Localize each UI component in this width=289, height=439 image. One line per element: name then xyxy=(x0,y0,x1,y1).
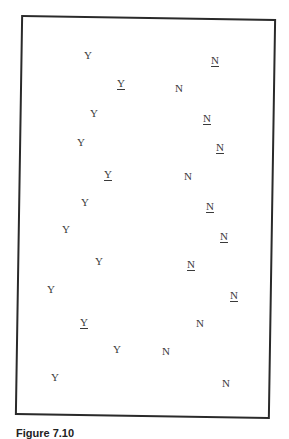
n-marker-underlined: N xyxy=(216,141,224,153)
y-marker-underlined: Y xyxy=(80,316,88,328)
y-marker: Y xyxy=(62,223,70,235)
figure-frame xyxy=(15,15,276,419)
y-marker-underlined: Y xyxy=(117,77,125,89)
figure-caption: Figure 7.10 xyxy=(16,427,74,439)
y-marker: Y xyxy=(51,371,59,383)
y-marker: Y xyxy=(113,343,121,355)
y-marker-underlined: Y xyxy=(104,168,112,180)
n-marker-underlined: N xyxy=(187,258,195,270)
n-marker-underlined: N xyxy=(203,112,211,124)
n-marker-underlined: N xyxy=(206,200,214,212)
y-marker: Y xyxy=(81,196,89,208)
n-marker-underlined: N xyxy=(220,230,228,242)
y-marker: Y xyxy=(77,136,85,148)
n-marker: N xyxy=(222,377,230,389)
n-marker: N xyxy=(175,82,183,94)
y-marker: Y xyxy=(47,283,55,295)
n-marker: N xyxy=(184,170,192,182)
y-marker: Y xyxy=(84,49,92,61)
y-marker: Y xyxy=(90,107,98,119)
n-marker: N xyxy=(162,345,170,357)
n-marker-underlined: N xyxy=(211,54,219,66)
n-marker-underlined: N xyxy=(230,289,238,301)
y-marker: Y xyxy=(95,255,103,267)
n-marker: N xyxy=(196,317,204,329)
